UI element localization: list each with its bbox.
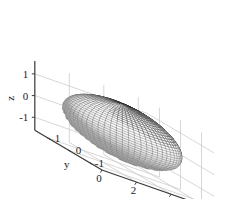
y-tick-label-0: 1	[55, 132, 61, 144]
y-tick-label-2: -1	[95, 157, 104, 169]
y-axis-title: y	[64, 158, 70, 170]
surface-mesh	[62, 94, 182, 171]
y-tick-label-1: 0	[76, 144, 82, 156]
z-tick-label-0: 1	[23, 68, 29, 80]
x-tick-label-2: 4	[165, 196, 171, 199]
z-tick-label-1: 0	[23, 90, 29, 102]
x-tick-label-0: 0	[96, 172, 102, 184]
figure-canvas: 024610-110-1 xyz	[0, 0, 230, 199]
ellipsoid-3d-plot[interactable]: 024610-110-1 xyz	[0, 0, 230, 199]
x-tick-label-1: 2	[131, 184, 137, 196]
z-axis-title: z	[4, 96, 16, 101]
z-tick-label-2: -1	[19, 111, 28, 123]
